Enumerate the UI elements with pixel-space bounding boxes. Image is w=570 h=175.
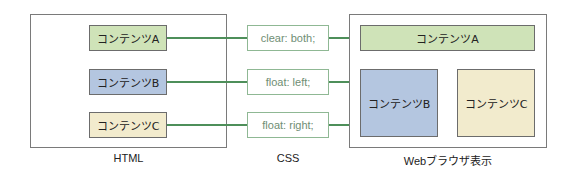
browser-content-b-label: コンテンツB [368, 95, 431, 111]
css-rule-clear-both: clear: both; [247, 25, 329, 51]
css-panel-label: CSS [247, 152, 329, 164]
css-rule-float-left-text: float: left; [266, 76, 311, 88]
browser-content-c: コンテンツC [457, 69, 535, 137]
browser-content-b: コンテンツB [360, 69, 438, 137]
css-rule-float-right: float: right; [247, 112, 329, 138]
browser-content-c-label: コンテンツC [465, 95, 528, 111]
css-rule-float-right-text: float: right; [262, 119, 313, 131]
browser-panel-label: Webブラウザ表示 [349, 152, 547, 168]
browser-content-a-label: コンテンツA [416, 30, 479, 46]
css-rule-float-left: float: left; [247, 69, 329, 95]
browser-content-a: コンテンツA [360, 25, 535, 51]
css-rule-clear-both-text: clear: both; [261, 32, 315, 44]
